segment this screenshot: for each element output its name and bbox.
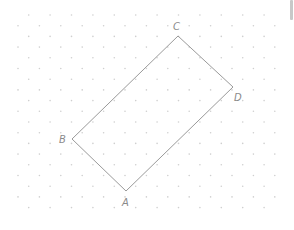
vertex-label-d: D [234,92,242,103]
vertex-label-c: C [173,21,180,32]
vertex-label-a: A [121,197,129,208]
vertex-label-b: B [59,134,66,145]
dot-grid [17,14,275,208]
rectangle-abcd [72,36,233,191]
scrollbar-thumb[interactable] [290,0,293,20]
diagram-canvas: A B C D [0,0,294,230]
